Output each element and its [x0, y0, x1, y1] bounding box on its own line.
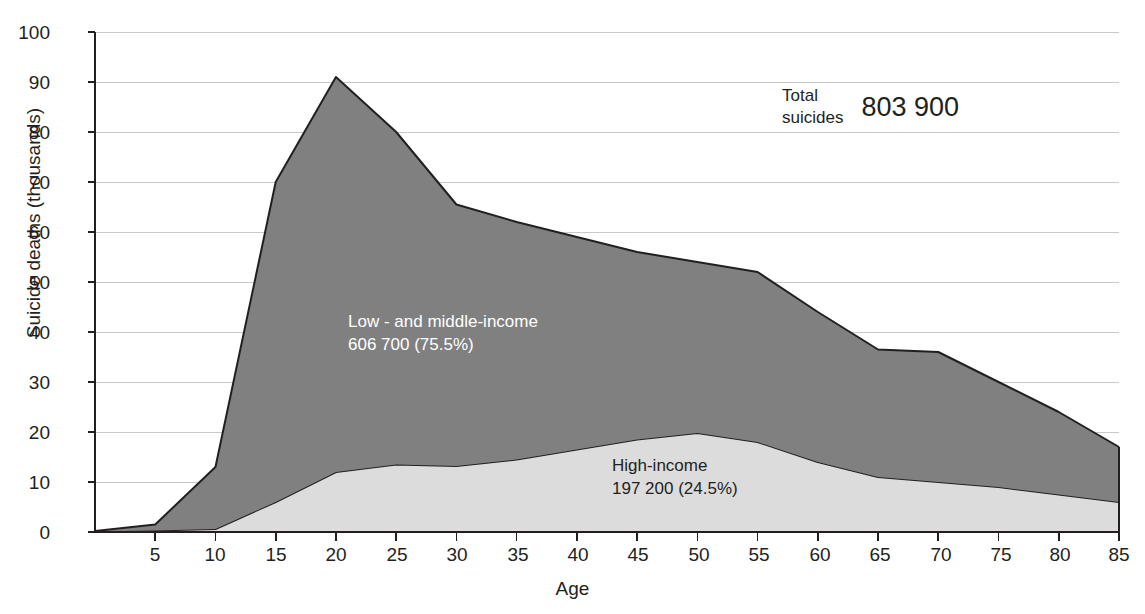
annotation-low-middle-income-line1: Low - and middle-income	[348, 311, 538, 334]
x-tick-label-30: 30	[427, 545, 487, 564]
x-tick-label-50: 50	[669, 545, 729, 564]
y-tick-label-10: 10	[0, 473, 50, 492]
x-axis-title: Age	[0, 578, 1145, 600]
y-tick-label-80: 80	[0, 123, 50, 142]
x-tick-label-25: 25	[367, 545, 427, 564]
annotation-total-suicides: Total suicides 803 900	[782, 85, 959, 129]
annotation-low-middle-income-line2: 606 700 (75.5%)	[348, 334, 538, 357]
x-tick-label-40: 40	[548, 545, 608, 564]
y-tick-label-30: 30	[0, 373, 50, 392]
annotation-low-middle-income: Low - and middle-income 606 700 (75.5%)	[348, 311, 538, 357]
annotation-high-income: High-income 197 200 (24.5%)	[612, 455, 738, 501]
annotation-high-income-line1: High-income	[612, 455, 738, 478]
annotation-total-label-line1: Total	[782, 85, 843, 107]
x-tick-label-45: 45	[608, 545, 668, 564]
area-chart-svg	[95, 32, 1119, 532]
plot-area	[95, 32, 1119, 532]
x-tick-label-15: 15	[246, 545, 306, 564]
annotation-total-label: Total suicides	[782, 85, 843, 129]
x-tick-label-65: 65	[850, 545, 910, 564]
y-tick-label-40: 40	[0, 323, 50, 342]
y-tick-label-20: 20	[0, 423, 50, 442]
y-tick-label-60: 60	[0, 223, 50, 242]
x-tick-label-55: 55	[729, 545, 789, 564]
y-tick-label-0: 0	[0, 523, 50, 542]
annotation-total-label-line2: suicides	[782, 107, 843, 129]
y-tick-label-90: 90	[0, 73, 50, 92]
x-tick-label-10: 10	[185, 545, 245, 564]
x-tick-label-20: 20	[306, 545, 366, 564]
x-tick-label-70: 70	[911, 545, 971, 564]
x-tick-label-85: 85	[1089, 545, 1145, 564]
annotation-total-value: 803 900	[861, 92, 959, 123]
x-tick-label-75: 75	[971, 545, 1031, 564]
chart-container: Suicide deaths (thousands) 100 90 80 70 …	[0, 0, 1145, 614]
x-tick-label-5: 5	[125, 545, 185, 564]
x-tick-label-35: 35	[488, 545, 548, 564]
y-tick-label-50: 50	[0, 273, 50, 292]
y-tick-label-100: 100	[0, 23, 50, 42]
x-tick-label-60: 60	[790, 545, 850, 564]
annotation-high-income-line2: 197 200 (24.5%)	[612, 478, 738, 501]
y-tick-label-70: 70	[0, 173, 50, 192]
series-areas	[95, 77, 1119, 532]
x-tick-label-80: 80	[1030, 545, 1090, 564]
